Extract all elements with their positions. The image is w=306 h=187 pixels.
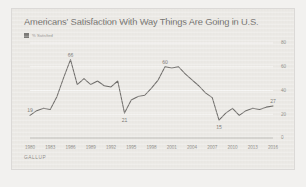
x-tick-2001: 2001	[167, 145, 177, 150]
plot-area	[30, 43, 273, 138]
x-tick-1989: 1989	[86, 145, 96, 150]
x-tick-2004: 2004	[187, 145, 197, 150]
data-label-19: 19	[27, 107, 33, 113]
y-tick-60: 60	[281, 64, 286, 69]
legend-swatch-icon	[24, 33, 29, 38]
x-tick-2016: 2016	[268, 145, 278, 150]
x-tick-1983: 1983	[45, 145, 55, 150]
x-tick-2007: 2007	[207, 145, 217, 150]
x-tick-1998: 1998	[146, 145, 156, 150]
data-label-27: 27	[270, 98, 276, 104]
data-label-60: 60	[162, 59, 168, 65]
chart-legend: % Satisfied	[24, 33, 53, 38]
gridlines	[30, 43, 273, 138]
line-chart-svg	[30, 43, 273, 138]
y-tick-20: 20	[281, 112, 286, 117]
x-tick-1992: 1992	[106, 145, 116, 150]
x-tick-1980: 1980	[25, 145, 35, 150]
y-tick-40: 40	[281, 88, 286, 93]
y-tick-0: 0	[281, 135, 284, 140]
y-tick-80: 80	[281, 40, 286, 45]
data-label-66: 66	[68, 52, 74, 58]
source-label: GALLUP	[24, 155, 46, 160]
x-tick-2010: 2010	[227, 145, 237, 150]
x-tick-2013: 2013	[248, 145, 258, 150]
chart-title: Americans' Satisfaction With Way Things …	[24, 17, 259, 27]
data-label-15: 15	[216, 124, 222, 130]
legend-label: % Satisfied	[32, 33, 53, 38]
x-tick-1986: 1986	[65, 145, 75, 150]
data-label-21: 21	[122, 117, 128, 123]
series-line-satisfied	[30, 60, 273, 121]
chart-card: Americans' Satisfaction With Way Things …	[12, 9, 294, 169]
x-tick-1995: 1995	[126, 145, 136, 150]
